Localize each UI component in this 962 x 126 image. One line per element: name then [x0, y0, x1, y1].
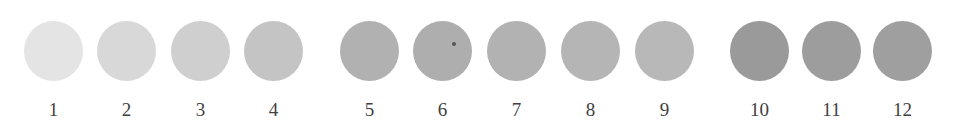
swatch-circle-6 [413, 21, 472, 81]
swatch-circle-9 [635, 21, 694, 81]
swatch-circle-12 [873, 21, 932, 81]
swatch-circle-7 [487, 21, 546, 81]
swatch-label-7: 7 [487, 99, 546, 121]
swatch-circle-11 [802, 21, 861, 81]
gray-swatch-scale: 1 2 3 4 5 6 7 8 9 10 11 12 [0, 0, 962, 126]
swatch-circle-8 [561, 21, 620, 81]
dust-speck [452, 42, 456, 46]
swatch-label-1: 1 [24, 99, 83, 121]
swatch-circle-3 [171, 21, 230, 81]
swatch-label-12: 12 [873, 99, 932, 121]
swatch-circle-5 [340, 21, 399, 81]
swatch-label-6: 6 [413, 99, 472, 121]
swatch-label-11: 11 [802, 99, 861, 121]
swatch-circle-2 [97, 21, 156, 81]
swatch-label-10: 10 [730, 99, 789, 121]
swatch-label-8: 8 [561, 99, 620, 121]
swatch-circle-10 [730, 21, 789, 81]
swatch-circle-4 [244, 21, 303, 81]
swatch-label-3: 3 [171, 99, 230, 121]
swatch-label-4: 4 [244, 99, 303, 121]
swatch-label-2: 2 [97, 99, 156, 121]
swatch-circle-1 [24, 21, 83, 81]
swatch-label-5: 5 [340, 99, 399, 121]
swatch-label-9: 9 [635, 99, 694, 121]
